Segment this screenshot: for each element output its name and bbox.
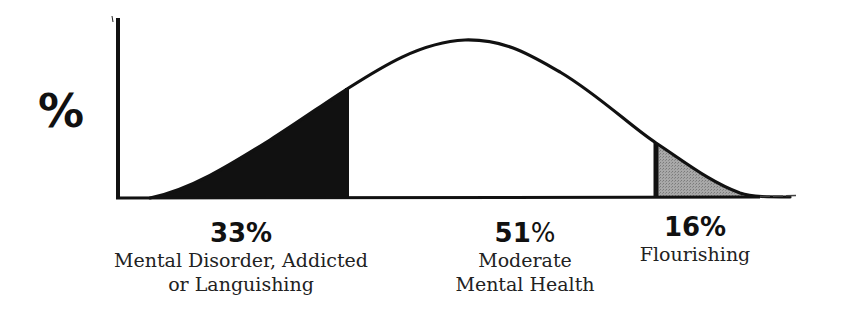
x-axis — [116, 197, 760, 198]
category-label-flourishing: 16% Flourishing — [620, 212, 770, 266]
category-description: Mental Health — [430, 272, 620, 296]
percentage-value: 33% — [96, 218, 386, 248]
segment-left-fill — [150, 89, 347, 198]
category-description: Moderate — [430, 248, 620, 272]
category-label-disorder: 33% Mental Disorder, Addicted or Languis… — [96, 218, 386, 296]
category-description: Mental Disorder, Addicted — [96, 248, 386, 272]
percentage-value: 16% — [620, 212, 770, 242]
category-description: or Languishing — [96, 272, 386, 296]
category-label-moderate: 51% Moderate Mental Health — [430, 218, 620, 296]
category-description: Flourishing — [620, 242, 770, 266]
percentage-value: 51% — [430, 218, 620, 248]
y-axis-label: % — [38, 88, 84, 134]
y-axis-tick — [112, 16, 113, 22]
x-axis-tail — [760, 196, 798, 197]
